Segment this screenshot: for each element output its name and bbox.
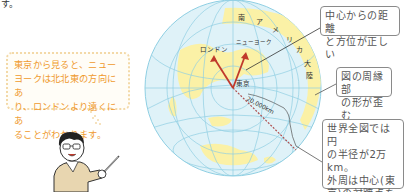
speech-line-2: ヨークは北北東の方向にあ	[14, 72, 122, 100]
label-tokyo: 東京	[236, 79, 250, 88]
callout-center-accuracy: 中心からの距離 と方位が正しい	[320, 6, 400, 36]
top-text-fragment: す。	[1, 0, 18, 10]
callout-note-line-4: 京)の対蹠点を	[327, 187, 399, 192]
label-newyork: ニューヨーク	[236, 39, 272, 45]
callout-note-line-1: 世界全図では円	[327, 122, 399, 148]
callout-center-line-2: と方位が正しい	[325, 35, 395, 61]
callout-center-line-1: 中心からの距離	[325, 9, 395, 35]
callout-edge-distortion: 図の周縁部 の形が歪む	[336, 67, 392, 97]
label-continent-5: カ	[296, 46, 303, 54]
callout-note-line-2: の半径が2万km。	[327, 148, 399, 174]
teacher-illustration	[40, 118, 120, 192]
speech-bubble: 東京から見ると、ニュー ヨークは北北東の方向にあ り、ロンドンより遠くにあ るこ…	[6, 52, 130, 110]
callout-edge-line-1: 図の周縁部	[341, 70, 387, 96]
label-continent-2: ア	[256, 18, 263, 26]
label-london: ロンドン	[200, 46, 228, 54]
azimuthal-equidistant-map: 東京 ロンドン ニューヨーク 20,000km 南 ア メ リ カ 大 陸	[140, 0, 340, 192]
label-continent-7: 陸	[306, 71, 313, 80]
callout-world-map-note: 世界全図では円 の半径が2万km。 外周は中心(東 京)の対蹠点を あらわす	[322, 119, 404, 189]
label-continent-6: 大	[304, 59, 311, 68]
label-continent-4: リ	[286, 36, 293, 44]
label-continent-3: メ	[272, 26, 279, 34]
speech-line-1: 東京から見ると、ニュー	[14, 58, 122, 72]
label-continent-1: 南	[238, 13, 245, 22]
callout-note-line-3: 外周は中心(東	[327, 174, 399, 187]
